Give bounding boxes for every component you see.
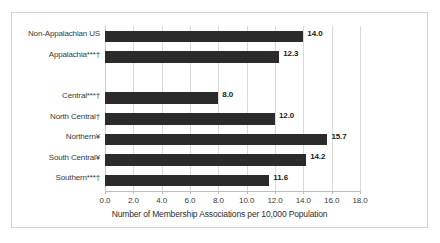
bar-value-label: 12.3: [283, 49, 298, 58]
x-tick-label: 10.0: [239, 196, 254, 205]
x-tick-mark: [332, 191, 333, 194]
bar: [105, 31, 303, 43]
x-tick-mark: [162, 191, 163, 194]
bar-value-label: 15.7: [331, 132, 346, 141]
x-tick-label: 14.0: [296, 196, 311, 205]
bar: [105, 134, 327, 146]
bar-row: Northern¥15.7: [105, 129, 360, 150]
x-tick-mark: [105, 191, 106, 194]
x-tick-label: 6.0: [185, 196, 196, 205]
category-label: North Central†: [50, 112, 100, 121]
x-tick-label: 8.0: [213, 196, 224, 205]
bar-value-label: 8.0: [222, 90, 233, 99]
bar: [105, 175, 269, 187]
bar-row: Appalachia***†12.3: [105, 47, 360, 68]
x-tick-mark: [247, 191, 248, 194]
bar-row: [105, 67, 360, 88]
plot-area: Non-Appalachian US14.0Appalachia***†12.3…: [105, 26, 360, 191]
x-tick-mark: [133, 191, 134, 194]
bar-row: South Central¥14.2: [105, 150, 360, 171]
bar-row: Southern***†11.6: [105, 170, 360, 191]
x-tick-mark: [218, 191, 219, 194]
bar: [105, 51, 279, 63]
x-tick-label: 16.0: [324, 196, 339, 205]
bar-value-label: 14.0: [307, 29, 322, 38]
x-tick-label: 4.0: [156, 196, 167, 205]
bar-row: Non-Appalachian US14.0: [105, 26, 360, 47]
bar: [105, 113, 275, 125]
x-tick-mark: [190, 191, 191, 194]
x-tick-mark: [360, 191, 361, 194]
category-label: Central***†: [62, 91, 100, 100]
category-label: South Central¥: [49, 153, 100, 162]
x-axis-title: Number of Membership Associations per 10…: [12, 209, 427, 219]
x-tick-label: 12.0: [267, 196, 282, 205]
bar-row: Central***†8.0: [105, 88, 360, 109]
bar-value-label: 12.0: [279, 111, 294, 120]
chart-frame: Non-Appalachian US14.0Appalachia***†12.3…: [11, 12, 428, 228]
category-label: Appalachia***†: [49, 50, 100, 59]
bar: [105, 154, 306, 166]
category-label: Non-Appalachian US: [28, 29, 100, 38]
x-tick-mark: [303, 191, 304, 194]
gridline-18: [360, 26, 361, 191]
x-tick-label: 2.0: [128, 196, 139, 205]
category-label: Northern¥: [66, 132, 100, 141]
x-tick-label: 0.0: [100, 196, 111, 205]
x-axis-line: [105, 191, 361, 192]
x-tick-label: 18.0: [352, 196, 367, 205]
bar: [105, 92, 218, 104]
bar-value-label: 11.6: [273, 173, 288, 182]
x-tick-mark: [275, 191, 276, 194]
bar-row: North Central†12.0: [105, 109, 360, 130]
category-label: Southern***†: [56, 173, 100, 182]
bar-value-label: 14.2: [310, 152, 325, 161]
